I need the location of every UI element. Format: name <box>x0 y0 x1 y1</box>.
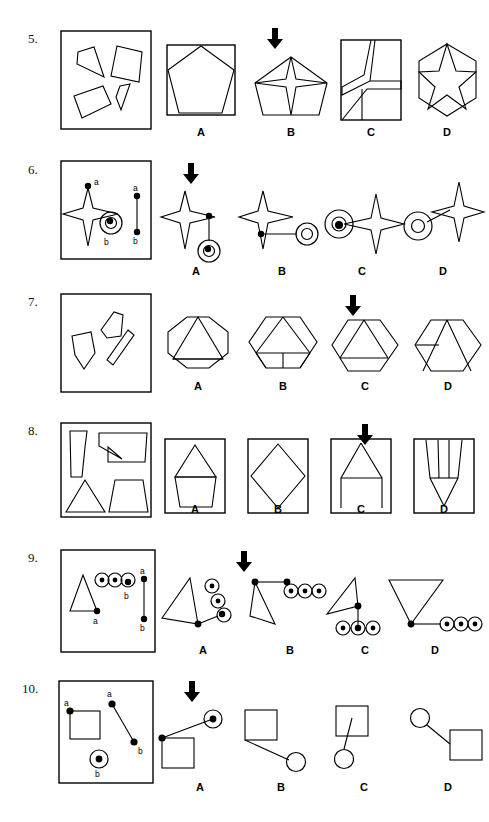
choice-letter-10-A: A <box>160 782 240 793</box>
choice-letter-5-B: B <box>253 127 329 138</box>
stimulus-label-10-a2: a <box>107 689 112 699</box>
choice-letter-6-D: D <box>400 266 486 277</box>
choice-figure-9-B[interactable] <box>245 574 335 644</box>
choice-letter-10-D: D <box>408 782 488 793</box>
stimulus-label-9-b2: b <box>140 623 145 633</box>
choice-letter-5-C: C <box>340 127 402 138</box>
question-number-7: 7. <box>28 295 38 308</box>
choice-figure-5-A[interactable] <box>166 44 236 116</box>
stimulus-figure-10: a b a b <box>58 680 154 784</box>
choice-figure-5-D[interactable] <box>414 42 480 118</box>
choice-letter-7-D: D <box>413 381 483 392</box>
stimulus-label-10-b1: b <box>95 769 100 779</box>
stimulus-figure-6: a b a b <box>60 160 152 260</box>
choice-figure-6-A[interactable] <box>159 189 233 267</box>
question-number-9: 9. <box>28 551 38 564</box>
stimulus-figure-5 <box>60 30 152 130</box>
stimulus-label-6-a2: a <box>133 183 138 193</box>
choice-letter-9-D: D <box>385 645 485 656</box>
choice-letter-6-C: C <box>318 266 406 277</box>
stimulus-label-6-a1: a <box>94 177 99 187</box>
choice-figure-6-C[interactable] <box>318 192 406 258</box>
test-page: 5. A <box>0 0 489 822</box>
choice-letter-7-C: C <box>330 381 400 392</box>
choice-figure-6-D[interactable] <box>400 180 486 256</box>
stimulus-figure-9: a b a b <box>60 549 156 653</box>
choice-letter-5-A: A <box>166 127 236 138</box>
answer-arrow-6 <box>182 163 200 185</box>
choice-figure-10-A[interactable] <box>160 708 240 774</box>
question-number-10: 10. <box>22 682 38 695</box>
stimulus-label-10-a1: a <box>64 698 69 708</box>
choice-figure-5-B[interactable] <box>253 55 329 117</box>
stimulus-label-9-a1: a <box>93 616 98 626</box>
stimulus-label-10-b2: b <box>138 746 143 756</box>
choice-figure-7-A[interactable] <box>165 315 231 371</box>
choice-letter-7-B: B <box>247 381 319 392</box>
answer-arrow-10 <box>183 681 201 703</box>
answer-arrow-5 <box>266 28 284 50</box>
stimulus-figure-8 <box>60 422 152 518</box>
choice-figure-10-D[interactable] <box>408 704 488 774</box>
question-number-5: 5. <box>28 32 38 45</box>
choice-letter-9-A: A <box>160 645 246 656</box>
question-number-8: 8. <box>28 424 38 437</box>
choice-figure-9-D[interactable] <box>385 574 485 644</box>
choice-letter-8-D: D <box>413 504 475 515</box>
choice-letter-8-B: B <box>247 504 309 515</box>
question-number-6: 6. <box>28 163 38 176</box>
answer-arrow-7 <box>344 295 362 317</box>
choice-figure-7-B[interactable] <box>247 315 319 371</box>
choice-letter-7-A: A <box>165 381 231 392</box>
answer-arrow-9 <box>235 551 253 573</box>
choice-figure-5-C[interactable] <box>340 39 402 121</box>
choice-letter-8-C: C <box>330 504 392 515</box>
choice-letter-10-C: C <box>330 782 398 793</box>
choice-letter-10-B: B <box>243 782 319 793</box>
stimulus-label-9-b1: b <box>124 591 129 601</box>
stimulus-figure-7 <box>60 293 152 393</box>
choice-letter-6-B: B <box>237 266 327 277</box>
choice-letter-5-D: D <box>414 127 480 138</box>
choice-figure-6-B[interactable] <box>237 189 327 259</box>
choice-figure-10-B[interactable] <box>243 708 319 774</box>
stimulus-label-9-a2: a <box>140 566 145 576</box>
choice-letter-8-A: A <box>164 504 226 515</box>
choice-figure-9-A[interactable] <box>160 574 246 646</box>
choice-letter-9-B: B <box>245 645 335 656</box>
choice-letter-6-A: A <box>159 266 233 277</box>
choice-figure-7-C[interactable] <box>330 318 400 374</box>
stimulus-label-6-b1: b <box>104 237 109 247</box>
choice-figure-10-C[interactable] <box>330 704 398 774</box>
choice-figure-7-D[interactable] <box>413 318 483 374</box>
stimulus-label-6-b2: b <box>133 236 138 246</box>
